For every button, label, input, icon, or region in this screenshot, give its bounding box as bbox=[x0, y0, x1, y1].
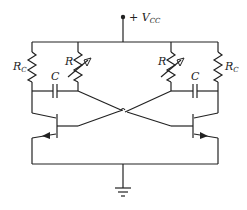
vcc-label: + VCC bbox=[129, 11, 161, 25]
resistor-rc-right bbox=[214, 42, 222, 91]
circuit-diagram: + VCC RC R C R RC bbox=[0, 0, 247, 210]
rc-right-label: RC bbox=[224, 60, 239, 74]
r-left-label: R bbox=[64, 55, 73, 68]
vcc-terminal bbox=[121, 15, 125, 42]
c-left-label: C bbox=[51, 70, 60, 83]
ground-icon bbox=[115, 164, 131, 196]
capacitor-left bbox=[53, 84, 57, 98]
c-right-label: C bbox=[191, 70, 200, 83]
transistor-left bbox=[32, 91, 78, 164]
cross-coupling-wires bbox=[78, 91, 171, 126]
r-right-label: R bbox=[157, 55, 166, 68]
resistor-rc-left bbox=[28, 42, 36, 91]
transistor-right bbox=[171, 91, 218, 164]
capacitor-right bbox=[193, 84, 197, 98]
rc-left-label: RC bbox=[12, 60, 27, 74]
